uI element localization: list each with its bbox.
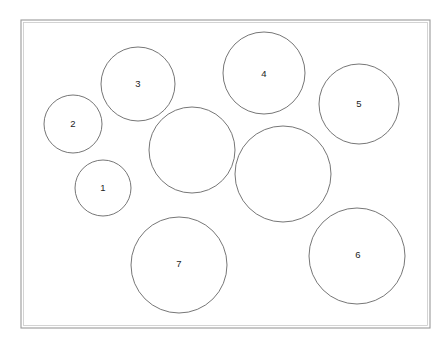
circle-collection — [44, 32, 405, 313]
circle-unlabeled-a[interactable] — [149, 107, 235, 193]
circle-2-label: 2 — [70, 118, 75, 129]
circle-3-label: 3 — [135, 78, 140, 89]
circle-unlabeled-b[interactable] — [235, 126, 331, 222]
circle-packing-figure: 1234567 — [0, 0, 448, 347]
diagram-canvas: 1234567 — [0, 0, 448, 347]
circle-4-label: 4 — [261, 68, 266, 79]
circle-6-label: 6 — [355, 249, 360, 260]
circle-5-label: 5 — [356, 98, 361, 109]
circle-7-label: 7 — [176, 258, 181, 269]
circle-1-label: 1 — [100, 182, 105, 193]
